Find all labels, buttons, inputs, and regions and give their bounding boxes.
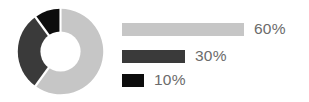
legend-label-10: 10% — [154, 72, 186, 88]
legend-bar-30 — [122, 50, 185, 63]
legend-bar-10 — [122, 74, 144, 87]
chart-legend: 60% 30% 10% — [122, 14, 307, 94]
legend-item-10: 10% — [122, 69, 186, 91]
donut-hole — [40, 31, 80, 71]
legend-label-60: 60% — [254, 21, 286, 37]
legend-bar-60 — [122, 23, 244, 36]
legend-item-30: 30% — [122, 45, 227, 67]
legend-label-30: 30% — [195, 48, 227, 64]
donut-chart-svg — [16, 7, 105, 96]
donut-chart-figure: 60% 30% 10% — [0, 0, 309, 102]
donut-chart — [16, 7, 105, 96]
legend-item-60: 60% — [122, 18, 286, 40]
